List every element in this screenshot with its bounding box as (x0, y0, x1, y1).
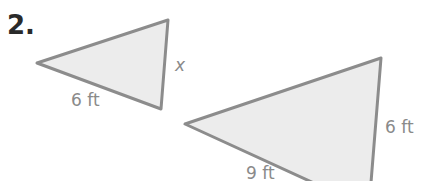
large-triangle (185, 58, 381, 181)
small-triangle-bottom-label: 6 ft (71, 92, 100, 109)
triangles-figure (0, 0, 437, 181)
small-triangle (37, 20, 168, 109)
small-triangle-right-label: x (175, 57, 185, 74)
large-triangle-bottom-label: 9 ft (246, 165, 275, 181)
large-triangle-right-label: 6 ft (385, 119, 414, 136)
